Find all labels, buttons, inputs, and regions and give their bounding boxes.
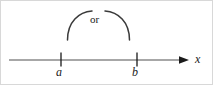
tick-label-a: a bbox=[56, 66, 62, 78]
number-line-figure: or a b x bbox=[0, 0, 213, 85]
bracket-arc-right bbox=[105, 11, 130, 40]
tick-label-b: b bbox=[132, 66, 138, 78]
figure-canvas bbox=[1, 1, 213, 85]
axis-label-x: x bbox=[195, 53, 200, 65]
axis-arrowhead-icon bbox=[179, 56, 189, 64]
bracket-or-label: or bbox=[90, 14, 99, 25]
bracket-arc-left bbox=[68, 11, 93, 40]
